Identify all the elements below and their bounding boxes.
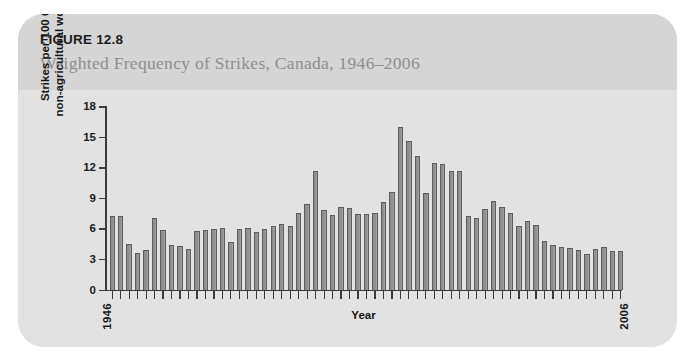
bar-1963 — [254, 232, 259, 289]
x-tick-1962 — [247, 291, 248, 299]
bar-1968 — [296, 213, 301, 289]
y-tick-0 — [99, 290, 105, 292]
bar-2006 — [618, 251, 623, 290]
x-tick-2004 — [603, 291, 604, 299]
bar-1984 — [432, 163, 437, 289]
y-tick-6 — [99, 228, 105, 230]
bar-2005 — [610, 251, 615, 290]
bar-1962 — [245, 228, 250, 289]
x-tick-1965 — [273, 291, 274, 299]
x-tick-1999 — [561, 291, 562, 299]
x-tick-1953 — [171, 291, 172, 299]
bar-1981 — [406, 141, 411, 290]
bar-1949 — [135, 253, 140, 290]
x-tick-1951 — [154, 291, 155, 299]
x-tick-1949 — [137, 291, 138, 299]
x-tick-2003 — [595, 291, 596, 299]
bar-1999 — [559, 247, 564, 290]
x-tick-1980 — [400, 291, 401, 299]
bar-1967 — [288, 226, 293, 289]
x-tick-1959 — [222, 291, 223, 299]
bar-1966 — [279, 224, 284, 289]
y-tick-label-18: 18 — [83, 100, 96, 112]
bar-1975 — [355, 214, 360, 289]
bar-1971 — [321, 210, 326, 290]
bar-1955 — [186, 249, 191, 290]
bar-1973 — [338, 207, 343, 290]
x-tick-1946 — [112, 291, 113, 299]
x-tick-1972 — [332, 291, 333, 299]
figure-card: FIGURE 12.8 Weighted Frequency of Strike… — [18, 14, 677, 347]
bar-1965 — [271, 226, 276, 289]
y-tick-label-15: 15 — [83, 131, 96, 143]
x-tick-1947 — [120, 291, 121, 299]
bar-1994 — [516, 226, 521, 289]
x-tick-1966 — [281, 291, 282, 299]
bar-2003 — [593, 249, 598, 290]
bar-2001 — [576, 250, 581, 290]
x-tick-1992 — [502, 291, 503, 299]
x-tick-1963 — [256, 291, 257, 299]
y-tick-label-12: 12 — [83, 161, 96, 173]
x-tick-1967 — [290, 291, 291, 299]
x-tick-1970 — [315, 291, 316, 299]
figure-title: Weighted Frequency of Strikes, Canada, 1… — [40, 53, 420, 74]
y-tick-label-6: 6 — [90, 222, 96, 234]
bar-1950 — [143, 250, 148, 290]
x-tick-1964 — [264, 291, 265, 299]
x-tick-1960 — [230, 291, 231, 299]
x-tick-1998 — [552, 291, 553, 299]
x-tick-1993 — [510, 291, 511, 299]
y-tick-label-3: 3 — [90, 253, 96, 265]
bar-1995 — [525, 221, 530, 289]
x-tick-1958 — [213, 291, 214, 299]
bar-1988 — [466, 216, 471, 289]
y-tick-18 — [99, 106, 105, 108]
bar-1992 — [499, 207, 504, 290]
bar-1978 — [381, 202, 386, 290]
x-tick-1968 — [298, 291, 299, 299]
bar-1976 — [364, 214, 369, 289]
bar-2002 — [584, 254, 589, 290]
bar-1986 — [449, 171, 454, 289]
bar-1947 — [118, 216, 123, 289]
x-tick-1982 — [417, 291, 418, 299]
bar-1946 — [110, 216, 115, 289]
bar-1987 — [457, 171, 462, 289]
x-tick-1989 — [476, 291, 477, 299]
bar-1980 — [398, 127, 403, 289]
bar-1948 — [126, 244, 131, 290]
x-axis-end-label: 2006 — [618, 303, 630, 330]
bar-1958 — [211, 229, 216, 289]
bar-1991 — [491, 201, 496, 290]
bar-chart-plot-area: 0369121518 — [105, 106, 622, 291]
x-tick-1986 — [451, 291, 452, 299]
x-tick-1954 — [179, 291, 180, 299]
y-axis-title: Strikes per 100 000 non-agricultural wor… — [38, 14, 66, 124]
x-tick-1952 — [162, 291, 163, 299]
bar-2004 — [601, 247, 606, 290]
x-tick-1971 — [324, 291, 325, 299]
x-tick-1983 — [425, 291, 426, 299]
bar-1989 — [474, 218, 479, 289]
x-tick-1957 — [205, 291, 206, 299]
bar-1957 — [203, 230, 208, 289]
x-axis-title: Year — [105, 309, 622, 321]
bar-1977 — [372, 213, 377, 289]
x-tick-2006 — [620, 291, 621, 299]
bar-1952 — [160, 230, 165, 289]
x-tick-2005 — [612, 291, 613, 299]
x-tick-1974 — [349, 291, 350, 299]
x-tick-1988 — [468, 291, 469, 299]
figure-header-band — [18, 14, 677, 90]
y-axis-line — [105, 106, 107, 291]
x-tick-1985 — [442, 291, 443, 299]
x-tick-1979 — [391, 291, 392, 299]
x-tick-1991 — [493, 291, 494, 299]
x-tick-1977 — [374, 291, 375, 299]
bar-1972 — [330, 215, 335, 289]
y-tick-label-0: 0 — [90, 284, 96, 296]
bar-1979 — [389, 192, 394, 290]
bar-1951 — [152, 218, 157, 289]
x-tick-1997 — [544, 291, 545, 299]
